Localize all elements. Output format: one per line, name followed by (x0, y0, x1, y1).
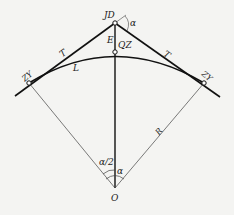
label-jd: JD (102, 10, 115, 20)
label-qz: QZ (118, 40, 132, 50)
label-r: R (153, 126, 164, 137)
point-jd (113, 21, 117, 25)
label-alpha-center: α (117, 166, 123, 176)
label-alpha-top: α (130, 18, 136, 28)
alpha-arc-top (125, 16, 129, 31)
curve-arc (29, 57, 204, 84)
label-l: L (72, 63, 79, 73)
label-t-right: T (161, 49, 172, 61)
label-o: O (111, 193, 119, 203)
point-yz (202, 81, 206, 85)
label-zy: ZY (20, 69, 35, 84)
label-e: E (106, 35, 114, 45)
label-half-alpha: α/2 (99, 157, 114, 167)
radius-left (29, 83, 115, 188)
diagram-canvas: JD α E QZ T T L ZY ZY R α/2 α O (0, 0, 234, 215)
point-qz (113, 50, 117, 54)
half-alpha-arc (103, 170, 115, 174)
curve-diagram: JD α E QZ T T L ZY ZY R α/2 α O (0, 0, 234, 215)
tangent-right (115, 23, 220, 97)
